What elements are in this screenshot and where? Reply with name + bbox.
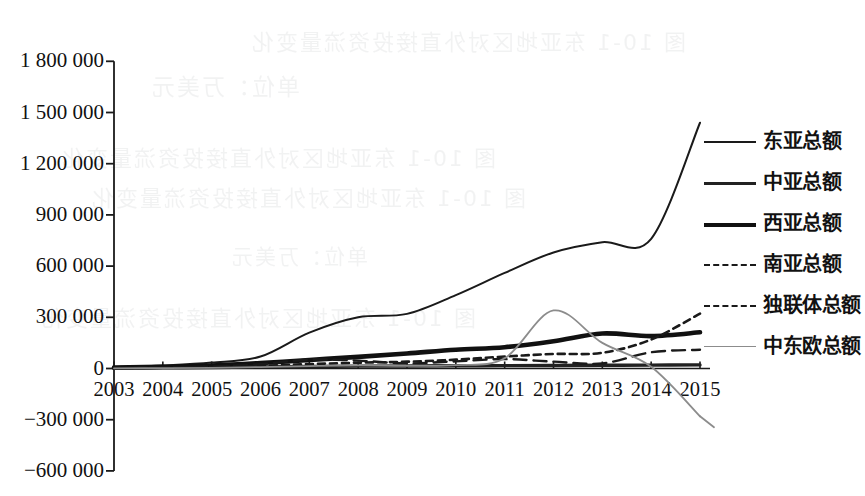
series-line bbox=[114, 123, 700, 367]
axis-layer bbox=[106, 61, 710, 471]
chart-container: 图 10-1 东亚地区对外直接投资流量变化 单位：万美元 图 10-1 东亚地区… bbox=[0, 0, 865, 496]
legend-item-label: 中亚总额 bbox=[763, 172, 841, 192]
legend-item: 中亚总额 bbox=[704, 161, 864, 202]
legend-item: 独联体总额 bbox=[704, 284, 864, 325]
legend-swatch-icon bbox=[704, 257, 756, 271]
legend-swatch-icon bbox=[704, 134, 756, 148]
legend-item-label: 中东欧总额 bbox=[763, 336, 861, 356]
legend-swatch-icon bbox=[704, 175, 756, 189]
legend-item: 南亚总额 bbox=[704, 243, 864, 284]
legend-swatch-icon bbox=[704, 339, 756, 353]
legend-item-label: 独联体总额 bbox=[763, 295, 861, 315]
legend-item: 中东欧总额 bbox=[704, 325, 864, 366]
series-layer bbox=[114, 123, 714, 427]
legend-item: 东亚总额 bbox=[704, 120, 864, 161]
legend-swatch-icon bbox=[704, 298, 756, 312]
series-line bbox=[114, 314, 700, 369]
legend-item-label: 东亚总额 bbox=[763, 131, 841, 151]
legend-item-label: 西亚总额 bbox=[763, 213, 841, 233]
legend: 东亚总额中亚总额西亚总额南亚总额独联体总额中东欧总额 bbox=[704, 120, 864, 366]
series-line-extension bbox=[700, 416, 714, 427]
legend-item: 西亚总额 bbox=[704, 202, 864, 243]
legend-item-label: 南亚总额 bbox=[763, 254, 841, 274]
legend-swatch-icon bbox=[704, 216, 756, 230]
